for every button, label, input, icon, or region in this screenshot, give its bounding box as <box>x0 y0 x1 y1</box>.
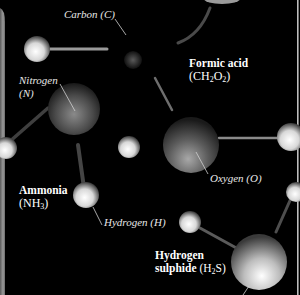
formic-acid-label: Formic acid (CH2O2) <box>189 57 248 84</box>
hydrogen-sulphide-name: Hydrogen <box>155 249 226 262</box>
carbon-label: Carbon (C) <box>64 8 115 21</box>
ammonia-label: Ammonia (NH3) <box>19 184 68 211</box>
hydrogen-sulphide-formula: sulphide (H2S) <box>155 262 226 275</box>
partial-atom-top <box>204 0 240 4</box>
hydrogen-label: Hydrogen (H) <box>104 216 166 229</box>
nitrogen-label-line2: (N) <box>19 87 58 100</box>
hydrogen-sulphide-label: Hydrogen sulphide (H2S) <box>155 249 226 275</box>
formic-acid-formula: (CH2O2) <box>189 70 248 84</box>
nitrogen-label: Nitrogen (N) <box>19 74 58 99</box>
ammonia-formula: (NH3) <box>19 197 68 211</box>
oxygen-label: Oxygen (O) <box>210 172 262 185</box>
molecule-illustration <box>0 0 300 295</box>
molecule-diagram: Carbon (C) Nitrogen (N) Formic acid (CH2… <box>0 0 300 295</box>
nitrogen-label-line1: Nitrogen <box>19 74 58 87</box>
